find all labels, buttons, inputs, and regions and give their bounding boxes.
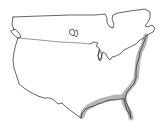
range-map: Range map — [0, 0, 167, 126]
us-canada-border — [18, 38, 90, 44]
us-outline — [12, 17, 81, 118]
map-svg — [0, 0, 167, 126]
canada-outline — [13, 9, 155, 36]
vancouver-island — [11, 29, 21, 38]
canadian-lakes — [70, 29, 78, 37]
highlighted-range — [82, 36, 146, 118]
